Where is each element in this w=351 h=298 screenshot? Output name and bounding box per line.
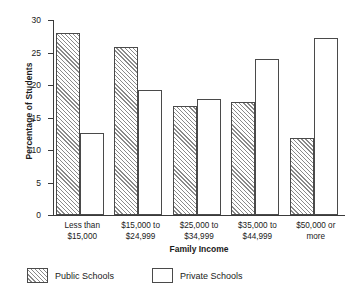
legend-item: Public Schools <box>27 268 114 283</box>
legend-swatch <box>27 268 48 283</box>
y-tick-label: 15 <box>32 113 41 123</box>
bar-chart-figure: Percentage of Students 051015202530 Less… <box>0 0 351 298</box>
y-tick: 25 <box>48 53 53 54</box>
y-tick-label: 20 <box>32 80 41 90</box>
x-axis-title: Family Income <box>53 244 345 254</box>
legend-item: Private Schools <box>152 268 243 283</box>
bar <box>173 106 197 215</box>
bar-group <box>231 20 279 215</box>
bar <box>197 99 221 215</box>
y-tick: 20 <box>48 85 53 86</box>
y-tick: 30 <box>48 20 53 21</box>
legend-label: Public Schools <box>55 271 114 281</box>
y-axis-title: Percentage of Students <box>24 16 34 206</box>
plot-area: 051015202530 Less than $15,000$15,000 to… <box>53 20 345 215</box>
y-tick-label: 25 <box>32 48 41 58</box>
legend-label: Private Schools <box>180 271 243 281</box>
bar-group <box>56 20 104 215</box>
bar <box>138 90 162 215</box>
bar <box>80 133 104 215</box>
bar-group <box>290 20 338 215</box>
bar-group <box>114 20 162 215</box>
x-tick-label: $50,000 or more <box>281 221 351 242</box>
y-tick: 10 <box>48 150 53 151</box>
bar <box>290 138 314 215</box>
y-tick: 5 <box>48 183 53 184</box>
bar <box>255 59 279 215</box>
y-axis-line <box>53 20 54 216</box>
y-tick-label: 0 <box>36 210 41 220</box>
legend-swatch <box>152 268 173 283</box>
x-axis-line <box>53 215 345 216</box>
y-tick-label: 10 <box>32 145 41 155</box>
bar <box>314 38 338 215</box>
bar <box>56 33 80 215</box>
y-tick: 15 <box>48 118 53 119</box>
y-tick: 0 <box>48 215 53 216</box>
y-tick-label: 5 <box>36 178 41 188</box>
bar <box>231 102 255 215</box>
bar <box>114 47 138 215</box>
chart-legend: Public SchoolsPrivate Schools <box>27 268 243 283</box>
bar-group <box>173 20 221 215</box>
y-tick-label: 30 <box>32 15 41 25</box>
